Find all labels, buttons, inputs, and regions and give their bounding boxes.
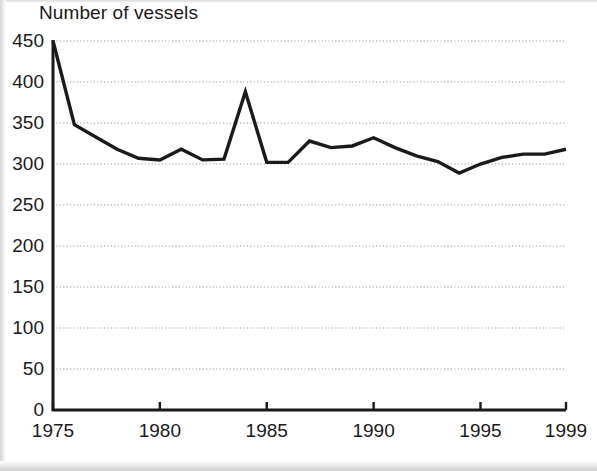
y-axis-tick-label: 150	[0, 276, 44, 298]
y-axis-tick-label: 100	[0, 317, 44, 339]
gridlines-group	[53, 41, 566, 369]
y-axis-tick-label: 250	[0, 194, 44, 216]
chart-screenshot: Number of vessels 0501001502002503003504…	[0, 0, 597, 471]
x-axis-tick-label: 1999	[545, 420, 587, 442]
y-axis-tick-label: 50	[0, 358, 44, 380]
x-axis-tick-label: 1990	[352, 420, 394, 442]
y-axis-tick-label: 450	[0, 30, 44, 52]
y-axis-tick-label: 350	[0, 112, 44, 134]
y-axis-tick-label: 300	[0, 153, 44, 175]
y-axis-tick-label: 400	[0, 71, 44, 93]
x-axis-tick-label: 1980	[139, 420, 181, 442]
line-chart-plot	[0, 0, 597, 471]
y-axis-tick-label: 0	[0, 399, 44, 421]
x-axis-tick-label: 1985	[246, 420, 288, 442]
data-series-line	[53, 41, 566, 173]
y-axis-tick-label: 200	[0, 235, 44, 257]
x-axis-tick-label: 1975	[32, 420, 74, 442]
x-axis-tick-label: 1995	[459, 420, 501, 442]
